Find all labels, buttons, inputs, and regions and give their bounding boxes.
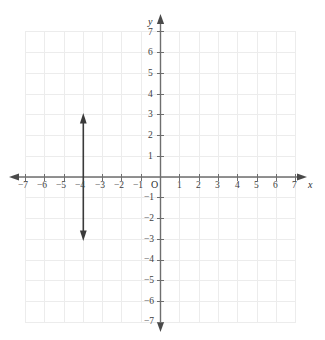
y-tick-label: 7 bbox=[148, 28, 153, 38]
y-tick-label: −2 bbox=[144, 214, 154, 224]
y-tick-label: −4 bbox=[144, 255, 154, 265]
y-tick-label: 5 bbox=[148, 69, 153, 79]
x-tick-label: 3 bbox=[215, 181, 220, 191]
x-tick-label: 5 bbox=[254, 181, 259, 191]
y-tick-label: 3 bbox=[148, 110, 153, 120]
x-tick-label: −6 bbox=[37, 181, 47, 191]
x-tick-label: −5 bbox=[56, 181, 66, 191]
x-tick-label: 2 bbox=[196, 181, 201, 191]
y-tick-label: −6 bbox=[144, 297, 154, 307]
graph-canvas bbox=[0, 0, 325, 340]
x-axis-label: x bbox=[308, 180, 312, 190]
x-tick-label: 1 bbox=[177, 181, 182, 191]
x-tick-label: 7 bbox=[292, 181, 297, 191]
origin-label: O bbox=[151, 180, 158, 190]
y-tick-label: 4 bbox=[148, 90, 153, 100]
x-tick-label: 4 bbox=[235, 181, 240, 191]
x-tick-label: −2 bbox=[114, 181, 124, 191]
y-tick-label: −5 bbox=[144, 276, 154, 286]
y-tick-label: −7 bbox=[144, 317, 154, 327]
x-tick-label: −7 bbox=[18, 181, 28, 191]
y-tick-label: 2 bbox=[148, 131, 153, 141]
axis-arrowheads bbox=[9, 14, 307, 332]
y-tick-label: 1 bbox=[148, 152, 153, 162]
x-tick-label: 6 bbox=[273, 181, 278, 191]
axes bbox=[13, 18, 303, 328]
y-tick-label: −1 bbox=[144, 193, 154, 203]
coordinate-plane-graph: y x O −7 −6 −5 −4 −3 −2 −1 1 2 3 4 5 6 7… bbox=[0, 0, 325, 340]
y-axis-top-arrow bbox=[157, 14, 164, 24]
x-axis-right-arrow bbox=[297, 173, 307, 180]
x-tick-label: −3 bbox=[95, 181, 105, 191]
y-tick-label: 6 bbox=[148, 48, 153, 58]
x-tick-label: −4 bbox=[75, 181, 85, 191]
y-tick-label: −3 bbox=[144, 235, 154, 245]
y-axis-bottom-arrow bbox=[157, 322, 164, 332]
y-axis-label: y bbox=[148, 17, 152, 27]
x-tick-label: −1 bbox=[133, 181, 143, 191]
